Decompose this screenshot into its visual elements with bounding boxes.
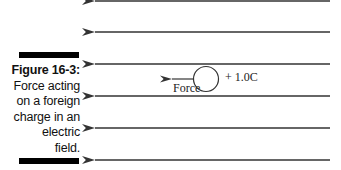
charge-label: + 1.0C xyxy=(225,70,258,84)
force-label: Force xyxy=(173,81,200,95)
electric-field-diagram: Force + 1.0C xyxy=(0,0,341,170)
